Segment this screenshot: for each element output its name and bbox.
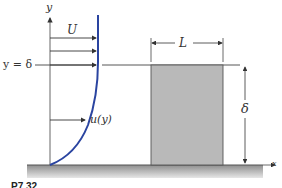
thickness-label: δ [241,102,249,115]
plate-length-label: L [179,37,187,49]
ground [27,165,263,178]
velocity-profile-curve [50,15,98,165]
flat-plate-block [151,65,223,165]
x-axis-label: x [272,160,277,168]
freestream-velocity-label: U [67,24,77,36]
velocity-profile-label: u(y) [90,114,112,125]
boundary-layer-edge-label: y = δ [3,59,32,70]
figure-caption: P7.32 [11,182,37,188]
y-axis-label: y [46,2,52,13]
boundary-layer-diagram [0,0,282,188]
